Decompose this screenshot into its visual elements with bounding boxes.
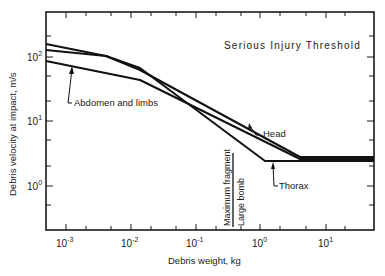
y-tick-label: 100 <box>27 179 42 192</box>
head-label: Head <box>263 128 286 139</box>
y-tick-label: 101 <box>27 114 42 127</box>
x-tick-label: 101 <box>318 236 333 249</box>
x-axis-label: Debris weight, kg <box>168 255 241 266</box>
max-fragment-label: Maximum fragment <box>222 148 232 226</box>
y-tick-label: 102 <box>27 50 42 63</box>
thorax-label: Thorax <box>279 180 309 191</box>
y-axis-label: Debris velocity at impact, m/s <box>7 72 18 196</box>
chart-title: Serious Injury Threshold <box>224 40 361 51</box>
x-tick-label: 10-2 <box>121 236 138 249</box>
x-tick-labels: 10-3 10-2 10-1 100 101 <box>56 236 333 249</box>
x-tick-label: 100 <box>252 236 267 249</box>
abdomen-label: Abdomen and limbs <box>74 97 158 108</box>
x-tick-label: 10-3 <box>56 236 73 249</box>
thorax-arrowhead <box>271 162 275 169</box>
abdomen-leader <box>68 69 72 103</box>
large-bomb-label: Large bomb <box>236 178 246 226</box>
chart: Serious Injury Threshold Abdomen and lim… <box>0 0 385 276</box>
x-tick-label: 10-1 <box>186 236 203 249</box>
abdomen-limbs-line <box>46 61 374 159</box>
y-tick-labels: 102 101 100 <box>27 50 42 192</box>
